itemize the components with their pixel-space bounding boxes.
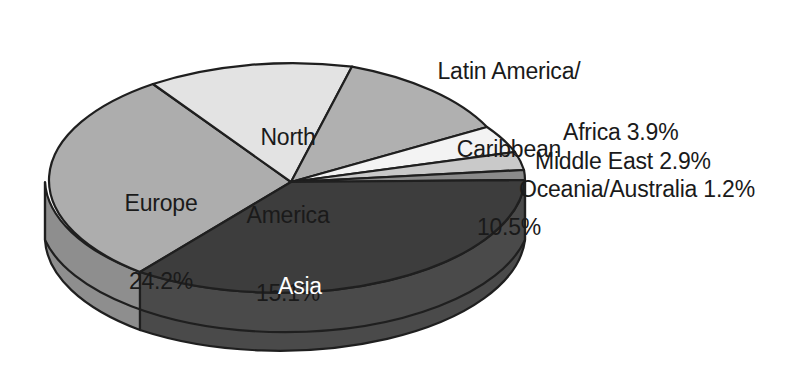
slice-label-asia-name: Asia — [238, 273, 362, 299]
slice-label-latin-america-line1: Latin America/ — [404, 58, 614, 84]
slice-label-europe-value: 24.2% — [99, 268, 223, 294]
slice-label-europe-name: Europe — [99, 190, 223, 216]
slice-label-asia: Asia 42.2% — [238, 221, 362, 388]
slice-label-asia-value: 42.2% — [238, 351, 362, 377]
slice-label-africa: Africa 3.9% — [563, 119, 678, 145]
slice-label-north-america-line1: North — [226, 124, 350, 150]
slice-label-europe: Europe 24.2% — [99, 138, 223, 346]
pie-chart-figure: Latin America/ Caribbean 10.5% Africa 3.… — [0, 0, 801, 388]
slice-label-middle-east: Middle East 2.9% — [535, 148, 711, 174]
slice-label-oceania-australia: Oceania/Australia 1.2% — [519, 176, 755, 202]
slice-label-latin-america-value: 10.5% — [404, 214, 614, 240]
